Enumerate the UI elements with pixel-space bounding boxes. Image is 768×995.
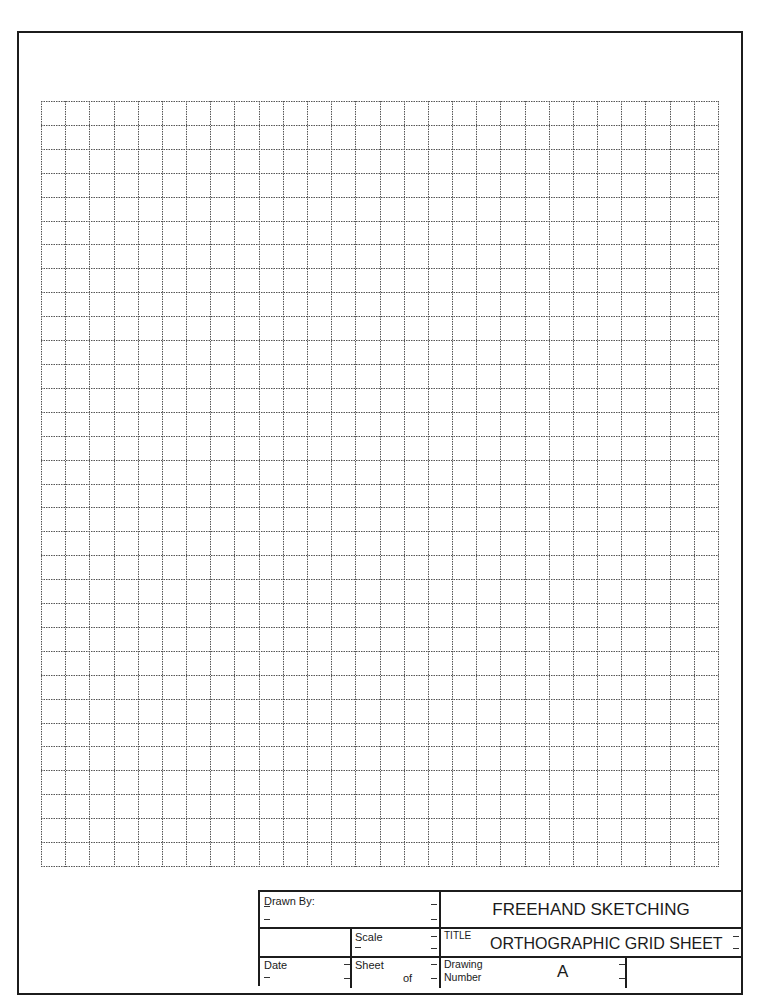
field-tick <box>431 978 437 979</box>
title-block-divider <box>741 892 743 988</box>
sketch-grid <box>41 101 719 867</box>
title-label: TITLE <box>444 930 471 941</box>
field-tick <box>619 964 625 965</box>
title-block-divider <box>350 927 352 988</box>
field-tick <box>431 904 437 905</box>
course-title: FREEHAND SKETCHING <box>441 900 741 920</box>
date-label: Date <box>264 959 287 971</box>
field-tick <box>619 978 625 979</box>
field-tick <box>431 936 437 937</box>
sheet-of-label: of <box>403 972 412 984</box>
field-tick <box>264 919 270 920</box>
field-tick <box>344 978 350 979</box>
field-tick <box>431 919 437 920</box>
drawing-title: ORTHOGRAPHIC GRID SHEET <box>490 935 723 953</box>
title-block-divider <box>260 956 743 958</box>
sheet-label: Sheet <box>355 959 384 971</box>
field-tick <box>264 977 270 978</box>
grid-lines <box>41 101 719 867</box>
drawn-by-label: Drawn By: <box>264 895 315 907</box>
field-tick <box>344 964 350 965</box>
field-tick <box>733 948 739 949</box>
field-tick <box>431 964 437 965</box>
title-block-divider <box>625 956 627 988</box>
drawing-number-label: Drawing <box>444 958 483 970</box>
scale-label: Scale <box>355 931 383 943</box>
field-tick <box>355 947 361 948</box>
title-block: Drawn By: FREEHAND SKETCHING Scale TITLE… <box>258 890 741 986</box>
field-tick <box>431 948 437 949</box>
field-tick <box>264 906 270 907</box>
title-block-divider <box>260 927 743 929</box>
field-tick <box>733 936 739 937</box>
drawing-number-label: Number <box>444 971 481 983</box>
drawing-number-value: A <box>557 962 568 982</box>
